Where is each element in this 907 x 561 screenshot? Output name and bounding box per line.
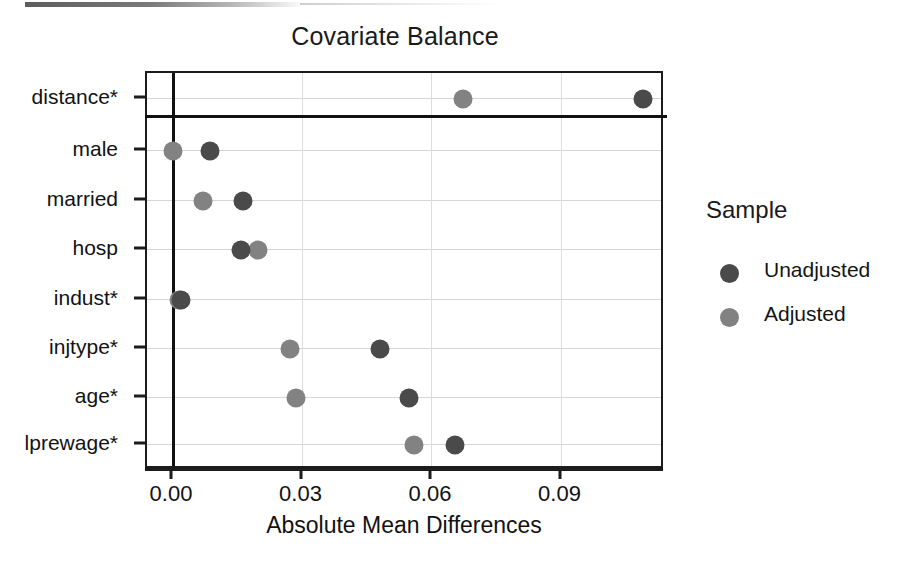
x-axis-tick-label: 0.03 [279, 481, 322, 507]
y-axis-label: male [0, 137, 118, 161]
plot-area [145, 71, 663, 468]
x-axis-title: Absolute Mean Differences [145, 512, 663, 539]
data-point-unadj [445, 436, 464, 455]
legend-key-dot-icon [720, 308, 739, 327]
y-axis-tick [134, 442, 145, 445]
data-point-adj [194, 192, 213, 211]
grid-line-horizontal [147, 348, 661, 349]
y-axis-label: lprewage* [0, 431, 118, 455]
y-axis-tick [134, 96, 145, 99]
y-axis-tick [134, 346, 145, 349]
data-point-adj [404, 436, 423, 455]
y-axis-tick [134, 395, 145, 398]
y-axis-tick [134, 247, 145, 250]
legend-item-unadj[interactable]: Unadjusted [700, 254, 900, 298]
x-axis-tick [170, 468, 173, 479]
x-axis-tick-label: 0.06 [409, 481, 452, 507]
grid-line-vertical [561, 73, 562, 466]
y-axis-tick [134, 198, 145, 201]
data-point-unadj [400, 389, 419, 408]
x-axis-tick-label: 0.09 [538, 481, 581, 507]
legend-item-label: Unadjusted [764, 258, 870, 282]
data-point-adj [164, 142, 183, 161]
y-axis-label: age* [0, 384, 118, 408]
legend-entries: UnadjustedAdjusted [700, 254, 900, 342]
legend-item-label: Adjusted [764, 302, 846, 326]
grid-line-vertical [431, 73, 432, 466]
y-axis-tick [134, 148, 145, 151]
legend-key-dot-icon [720, 264, 739, 283]
x-axis-tick-label: 0.00 [150, 481, 193, 507]
grid-line-horizontal [147, 200, 661, 201]
data-point-unadj [201, 142, 220, 161]
zero-reference-line [172, 73, 175, 466]
grid-line-vertical [302, 73, 303, 466]
data-point-unadj [233, 192, 252, 211]
x-axis-tick [299, 468, 302, 479]
legend: Sample UnadjustedAdjusted [700, 196, 900, 342]
grid-line-horizontal [147, 249, 661, 250]
y-axis-labels: distance*malemarriedhospindust*injtype*a… [10, 0, 140, 561]
grid-line-horizontal [147, 299, 661, 300]
data-point-adj [280, 340, 299, 359]
data-point-adj [454, 90, 473, 109]
y-axis-label: hosp [0, 236, 118, 260]
y-axis-label: injtype* [0, 335, 118, 359]
x-axis-tick [558, 468, 561, 479]
legend-title: Sample [706, 196, 900, 224]
scan-artifact-strip-fade [300, 3, 500, 5]
data-point-unadj [371, 340, 390, 359]
y-axis-label: distance* [0, 85, 118, 109]
y-axis-label: married [0, 187, 118, 211]
chart-root: Covariate Balance distance*malemarriedho… [0, 0, 907, 561]
x-axis-tick [429, 468, 432, 479]
data-point-adj [249, 241, 268, 260]
data-point-unadj [634, 90, 653, 109]
data-point-adj [287, 389, 306, 408]
grid-line-horizontal [147, 98, 661, 99]
legend-item-adj[interactable]: Adjusted [700, 298, 900, 342]
x-axis-line [145, 468, 663, 471]
grid-line-horizontal [147, 150, 661, 151]
group-separator-line [145, 115, 667, 118]
data-point-unadj [172, 291, 191, 310]
y-axis-tick [134, 297, 145, 300]
data-point-unadj [232, 241, 251, 260]
y-axis-label: indust* [0, 286, 118, 310]
